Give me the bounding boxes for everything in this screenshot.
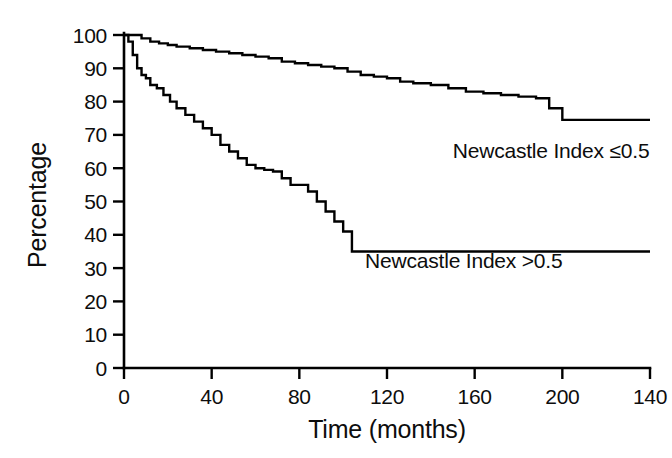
x-axis-ticks: [124, 368, 650, 379]
x-tick-label-160: 160: [458, 385, 492, 408]
y-tick-label-50: 50: [84, 190, 107, 213]
series-annotation-0: Newcastle Index ≤0.5: [453, 139, 650, 162]
y-tick-label-80: 80: [84, 90, 107, 113]
y-tick-label-10: 10: [84, 323, 107, 346]
y-axis-tick-labels: 0102030405060708090100: [73, 24, 107, 380]
y-tick-label-70: 70: [84, 123, 107, 146]
y-tick-label-40: 40: [84, 223, 107, 246]
x-axis-tick-labels: 04080120160200140: [118, 385, 667, 408]
y-axis-ticks: [113, 35, 124, 368]
x-tick-label-140: 140: [633, 385, 667, 408]
x-tick-label-40: 40: [200, 385, 223, 408]
x-tick-label-120: 120: [370, 385, 404, 408]
x-tick-label-200: 200: [545, 385, 579, 408]
kaplan-meier-plot: 0102030405060708090100 04080120160200140…: [0, 0, 672, 458]
y-tick-label-0: 0: [96, 357, 107, 380]
y-tick-label-20: 20: [84, 290, 107, 313]
y-tick-label-100: 100: [73, 24, 107, 47]
y-axis-title: Percentage: [23, 142, 51, 268]
x-axis-title: Time (months): [308, 415, 466, 443]
curve-series-0: [124, 35, 650, 120]
y-tick-label-30: 30: [84, 257, 107, 280]
survival-chart-figure: 0102030405060708090100 04080120160200140…: [0, 0, 672, 458]
y-tick-label-60: 60: [84, 157, 107, 180]
series-annotation-1: Newcastle Index >0.5: [365, 249, 562, 272]
x-tick-label-80: 80: [288, 385, 311, 408]
x-tick-label-0: 0: [118, 385, 129, 408]
y-tick-label-90: 90: [84, 57, 107, 80]
